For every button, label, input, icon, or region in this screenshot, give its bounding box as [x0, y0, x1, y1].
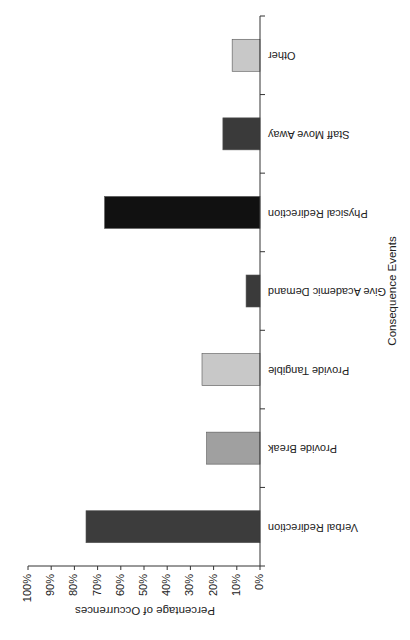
category-label: Provide Break [268, 443, 338, 455]
y-axis-title: Percentage of Occurrences [75, 605, 215, 617]
value-tick-label: 30% [183, 574, 195, 596]
value-tick-label: 90% [44, 574, 56, 596]
category-label: Provide Tangible [268, 365, 349, 377]
bar-physical-redirection [105, 196, 260, 228]
value-tick-label: 100% [21, 574, 33, 602]
value-tick-label: 70% [91, 574, 103, 596]
bar-other [232, 39, 260, 71]
value-tick-label: 80% [67, 574, 79, 596]
category-label: Other [268, 50, 296, 62]
value-tick-label: 50% [137, 574, 149, 596]
value-tick-label: 0% [253, 574, 265, 590]
category-label: Give Academic Demand [268, 286, 386, 298]
bar-provide-tangible [202, 354, 260, 386]
bar-provide-break [207, 432, 260, 464]
x-axis-title: Consequence Events [386, 236, 398, 346]
bars-group [86, 39, 260, 542]
bar-verbal-redirection [86, 511, 260, 543]
value-ticks: 0%10%20%30%40%50%60%70%80%90%100% [21, 566, 265, 602]
value-tick-label: 40% [160, 574, 172, 596]
category-label: Physical Redirection [268, 208, 368, 220]
bar-give-academic-demand [246, 275, 260, 307]
value-tick-label: 20% [207, 574, 219, 596]
category-ticks [260, 16, 265, 566]
category-label: Verbal Redirection [268, 522, 358, 534]
value-tick-label: 60% [114, 574, 126, 596]
bar-staff-move-away [223, 118, 260, 150]
value-tick-label: 10% [230, 574, 242, 596]
category-labels: Verbal RedirectionProvide BreakProvide T… [268, 50, 386, 533]
category-label: Staff Move Away [268, 129, 350, 141]
bar-chart: 0%10%20%30%40%50%60%70%80%90%100% Verbal… [0, 0, 410, 640]
